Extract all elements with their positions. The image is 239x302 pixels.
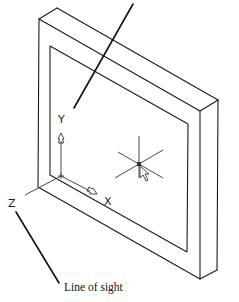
ucs-z-axis [25,176,61,195]
frame-outer-front [38,19,200,279]
ucs-icon: Y X Z [8,113,112,210]
z-axis-label: Z [8,197,16,210]
line-of-sight-label: Line of sight [64,281,124,294]
leader-top [74,4,133,108]
frame-inner-opening [50,46,188,252]
cursor-arrow-icon [140,166,149,181]
leader-line-of-sight [16,212,59,283]
diagram-canvas: Y X Z Line of sight [0,0,239,302]
crosshair-cursor [115,136,163,181]
y-axis-label: Y [57,113,65,126]
x-axis-label: X [104,195,112,208]
